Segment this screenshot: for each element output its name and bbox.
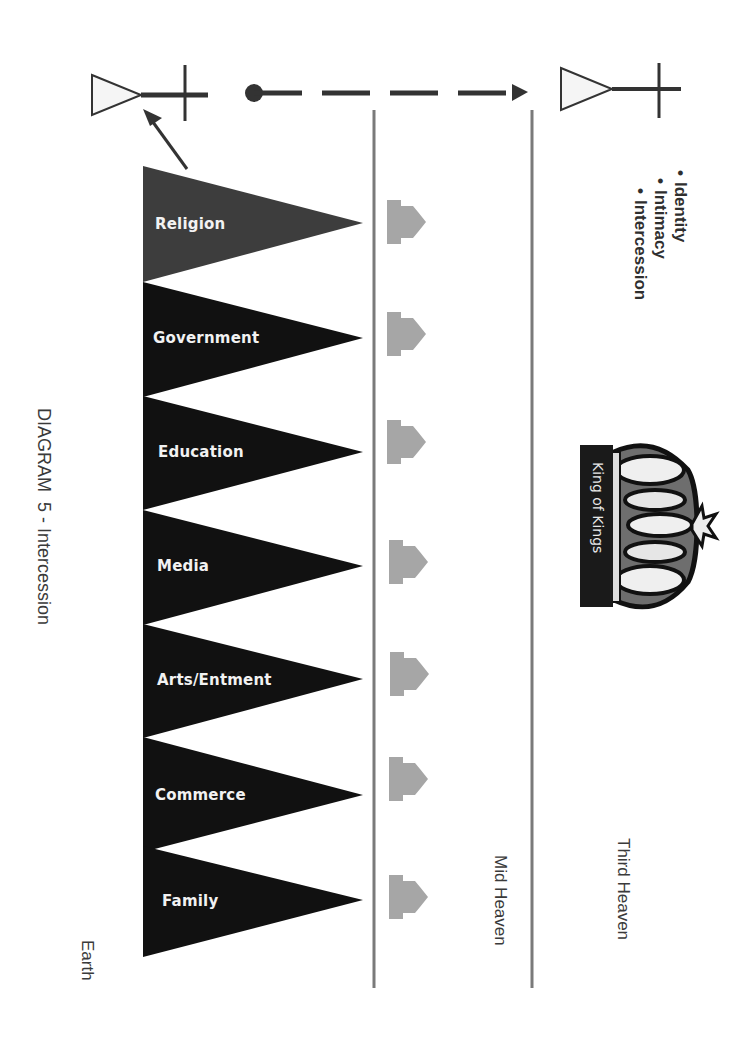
pennant-label-education: Education	[158, 443, 244, 461]
bullet-intimacy: Intimacy	[650, 170, 670, 300]
stronghold-icon-4	[389, 540, 428, 584]
earth-label: Earth	[77, 940, 97, 981]
mid-heaven-label: Mid Heaven	[490, 855, 510, 946]
diagram-title: DIAGRAM 5 - Intercession	[33, 408, 54, 625]
stronghold-icon-2	[387, 312, 426, 356]
third-heaven-antenna-icon	[561, 63, 681, 118]
pennant-label-religion: Religion	[155, 215, 225, 233]
religion-to-antenna-arrow	[143, 109, 187, 169]
stronghold-icon-7	[389, 875, 428, 919]
crown-banner-text: King of Kings	[590, 462, 606, 553]
pennant-label-arts-entertainment: Arts/Entment	[157, 671, 272, 689]
stronghold-icon-5	[390, 652, 429, 696]
bullet-intercession: Intercession	[630, 170, 650, 300]
stronghold-icon-1	[387, 200, 426, 244]
stronghold-icon-6	[389, 757, 428, 801]
pennant-label-government: Government	[153, 329, 259, 347]
pennant-label-media: Media	[157, 557, 209, 575]
intercession-arrow	[245, 84, 528, 102]
intercession-diagram: King of Kings Religion Government Educat…	[0, 0, 749, 1063]
bullet-identity: Identity	[670, 170, 690, 300]
pennant-label-family: Family	[162, 892, 218, 910]
stronghold-icon-3	[387, 420, 426, 464]
third-heaven-label: Third Heaven	[613, 838, 633, 940]
pennant-label-commerce: Commerce	[155, 786, 246, 804]
intercession-steps-list: Identity Intimacy Intercession	[630, 170, 690, 300]
